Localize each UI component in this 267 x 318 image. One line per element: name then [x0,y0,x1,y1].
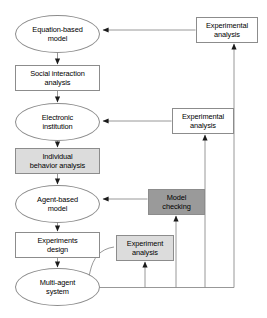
node-label: Individual behavior analysis [29,152,86,171]
node-label-line2: checking [162,202,190,211]
node-label-line1: Social interaction [30,69,84,78]
node-label: Agent-based model [36,195,79,214]
node-label-line2: institution [42,122,72,131]
node-experiments-design[interactable]: Experiments design [15,232,100,258]
node-label-line1: Experimental [206,21,248,30]
node-label-line2: behavior analysis [30,161,85,170]
node-label: Multi-agent system [39,278,76,297]
node-social-interaction-analysis[interactable]: Social interaction analysis [15,65,100,91]
node-label: Social interaction analysis [29,69,85,88]
node-model-checking[interactable]: Model checking [148,189,205,215]
node-experimental-analysis-mid[interactable]: Experimental analysis [172,108,234,134]
node-label-line1: Experiments [38,236,78,245]
node-equation-based-model[interactable]: Equation-based model [15,15,100,53]
node-label: Experimental analysis [205,21,249,40]
node-label-line2: model [48,34,68,43]
node-label: Experiment analysis [126,239,164,258]
node-label-line1: Equation-based [32,25,82,34]
node-label-line1: Agent-based [37,195,78,204]
node-label-line2: system [46,287,69,296]
node-label: Model checking [161,193,191,212]
node-label: Experiments design [37,236,79,255]
node-experimental-analysis-top[interactable]: Experimental analysis [196,17,258,43]
node-label-line2: analysis [132,248,158,257]
node-individual-behavior-analysis[interactable]: Individual behavior analysis [15,148,100,174]
node-electronic-institution[interactable]: Electronic institution [15,103,100,141]
flow-diagram: Equation-based model Social interaction … [0,0,267,318]
node-label-line1: Multi-agent [40,278,75,287]
node-multi-agent-system[interactable]: Multi-agent system [15,268,100,306]
node-agent-based-model[interactable]: Agent-based model [15,185,100,223]
node-label: Electronic institution [41,113,74,132]
node-label-line1: Experiment [127,239,163,248]
node-label: Equation-based model [31,25,83,44]
node-label-line1: Individual [42,152,72,161]
node-label-line1: Electronic [42,113,73,122]
node-experiment-analysis[interactable]: Experiment analysis [116,235,174,261]
node-label-line2: design [47,245,68,254]
node-label-line2: analysis [214,30,240,39]
node-label-line2: model [48,204,68,213]
node-label-line1: Experimental [182,112,224,121]
node-label: Experimental analysis [181,112,225,131]
node-label-line2: analysis [190,121,216,130]
node-label-line2: analysis [45,78,71,87]
node-label-line1: Model [167,193,187,202]
